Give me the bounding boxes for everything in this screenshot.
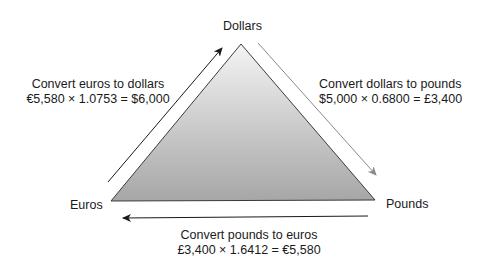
triangular-arbitrage-diagram: [0, 0, 492, 266]
edge-label-euros-to-dollars: Convert euros to dollars €5,580 × 1.0753…: [24, 77, 172, 107]
edge-formula: £3,400 × 1.6412 = €5,580: [169, 243, 329, 258]
currency-triangle: [111, 44, 375, 201]
node-label-euros: Euros: [70, 198, 103, 213]
edge-label-dollars-to-pounds: Convert dollars to pounds $5,000 × 0.680…: [319, 77, 462, 107]
edge-title: Convert euros to dollars: [24, 77, 172, 92]
edge-formula: $5,000 × 0.6800 = £3,400: [319, 92, 462, 107]
node-label-dollars: Dollars: [223, 19, 262, 34]
edge-title: Convert pounds to euros: [169, 228, 329, 243]
arrow-pounds-to-euros: [123, 216, 368, 218]
edge-formula: €5,580 × 1.0753 = $6,000: [24, 92, 172, 107]
edge-title: Convert dollars to pounds: [319, 77, 462, 92]
edge-label-pounds-to-euros: Convert pounds to euros £3,400 × 1.6412 …: [169, 228, 329, 258]
node-label-pounds: Pounds: [386, 197, 428, 212]
